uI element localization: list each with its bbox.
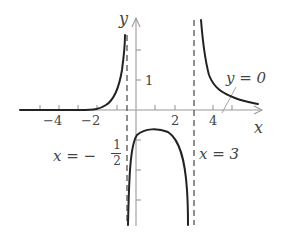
middle-branch xyxy=(128,129,188,225)
asymptote-right-label: x = 3 xyxy=(199,147,239,162)
y0-pointer-line xyxy=(222,87,236,113)
x-tick-label-4: 4 xyxy=(209,114,217,127)
right-branch xyxy=(201,20,258,104)
x-tick-label-neg2: −2 xyxy=(81,114,100,127)
y-tick-label-1: 1 xyxy=(145,74,153,87)
y-axis-label: y xyxy=(119,11,128,27)
left-branch xyxy=(20,35,125,110)
x-tick-label-2: 2 xyxy=(171,114,179,127)
horizontal-asymptote-label: y = 0 xyxy=(226,71,266,86)
x-tick-label-neg4: −4 xyxy=(43,114,62,127)
y-axis xyxy=(132,18,141,226)
asymptote-left-fraction-num: 1 xyxy=(112,139,122,151)
x-axis-label: x xyxy=(254,120,263,136)
asymptote-left-fraction-den: 2 xyxy=(112,155,122,167)
asymptote-left-label-prefix: x = − xyxy=(53,149,96,164)
